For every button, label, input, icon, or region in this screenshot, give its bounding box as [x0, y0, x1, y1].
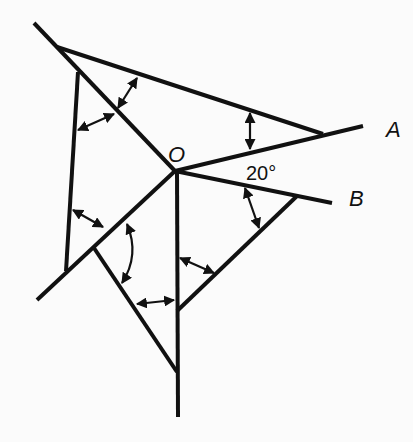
diagram-canvas: O A B 20° [0, 0, 413, 442]
angle-arrow-vertical-right [180, 258, 214, 273]
angle-arrow-top-left [118, 78, 137, 108]
label-o: O [168, 142, 185, 167]
angle-arrow-b [245, 188, 259, 228]
diagram-svg: O A B 20° [0, 0, 413, 442]
segment-left-vertical [66, 72, 78, 271]
lower-left-line [37, 171, 175, 300]
vertical-line [177, 171, 178, 417]
angle-arrow-curved [122, 224, 132, 283]
angle-arrow-bottom [137, 300, 174, 304]
label-b: B [349, 186, 364, 211]
angle-arrow-left-lower [73, 210, 103, 227]
segment-right [177, 196, 297, 311]
label-angle-20: 20° [246, 162, 276, 184]
upper-left-line [34, 23, 175, 171]
angle-arrow-left-upper [78, 114, 114, 130]
segment-lower-branch [94, 248, 177, 372]
label-a: A [384, 117, 401, 142]
